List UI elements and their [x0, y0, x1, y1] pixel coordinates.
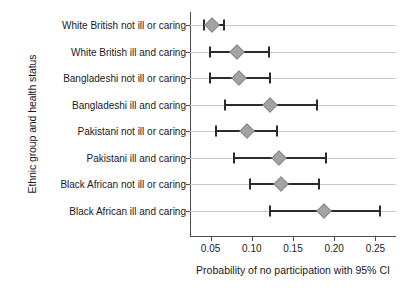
estimate-marker — [274, 176, 290, 192]
plot-area — [190, 12, 396, 224]
estimate-marker — [271, 150, 287, 166]
y-axis-tick — [186, 105, 190, 106]
x-axis-tick-label: 0.20 — [324, 243, 343, 254]
estimate-marker — [317, 203, 333, 219]
y-axis-spine — [190, 12, 191, 236]
estimate-marker — [239, 123, 255, 139]
confidence-interval-cap — [316, 99, 318, 110]
y-axis-tick — [186, 78, 190, 79]
estimate-marker — [229, 44, 245, 60]
confidence-interval-cap — [224, 99, 226, 110]
x-axis-tick-label: 0.25 — [366, 243, 385, 254]
y-axis-tick — [186, 131, 190, 132]
confidence-interval-cap — [276, 126, 278, 137]
y-axis-tick — [186, 25, 190, 26]
x-axis-tick — [375, 236, 376, 241]
confidence-interval-cap — [325, 152, 327, 163]
confidence-interval-cap — [249, 179, 251, 190]
estimate-marker — [232, 70, 248, 86]
y-axis-category-label: White British ill and caring — [22, 46, 186, 57]
y-axis-tick — [186, 211, 190, 212]
y-axis-category-label: Bangladeshi not ill or caring — [22, 73, 186, 84]
confidence-interval-cap — [209, 73, 211, 84]
y-axis-tick — [186, 184, 190, 185]
x-axis-tick-label: 0.15 — [283, 243, 302, 254]
x-axis-title: Probability of no participation with 95%… — [190, 264, 396, 276]
x-axis-tick — [252, 236, 253, 241]
x-axis-tick — [211, 236, 212, 241]
y-axis-category-labels: White British not ill or caringWhite Bri… — [22, 12, 186, 224]
y-axis-category-label: Black African not ill or caring — [22, 179, 186, 190]
confidence-interval-cap — [379, 205, 381, 216]
x-axis-tick-label: 0.05 — [201, 243, 220, 254]
confidence-interval-cap — [215, 126, 217, 137]
y-axis-tick — [186, 52, 190, 53]
confidence-interval-cap — [318, 179, 320, 190]
y-axis-category-label: Pakistani ill and caring — [22, 152, 186, 163]
confidence-interval-cap — [269, 73, 271, 84]
x-axis-tick — [293, 236, 294, 241]
confidence-interval-cap — [268, 46, 270, 57]
x-axis-tick-label: 0.10 — [242, 243, 261, 254]
y-axis-tick — [186, 158, 190, 159]
y-axis-category-label: Pakistani not ill or caring — [22, 126, 186, 137]
confidence-interval-cap — [209, 46, 211, 57]
x-axis-tick — [334, 236, 335, 241]
y-axis-category-label: White British not ill or caring — [22, 20, 186, 31]
confidence-interval-cap — [233, 152, 235, 163]
confidence-interval-cap — [269, 205, 271, 216]
y-axis-category-label: Black African ill and caring — [22, 205, 186, 216]
confidence-interval-cap — [223, 20, 225, 31]
estimate-marker — [204, 17, 220, 33]
y-axis-category-label: Bangladeshi ill and caring — [22, 99, 186, 110]
forest-plot-chart: Ethnic group and health status White Bri… — [0, 0, 413, 288]
estimate-marker — [262, 97, 278, 113]
